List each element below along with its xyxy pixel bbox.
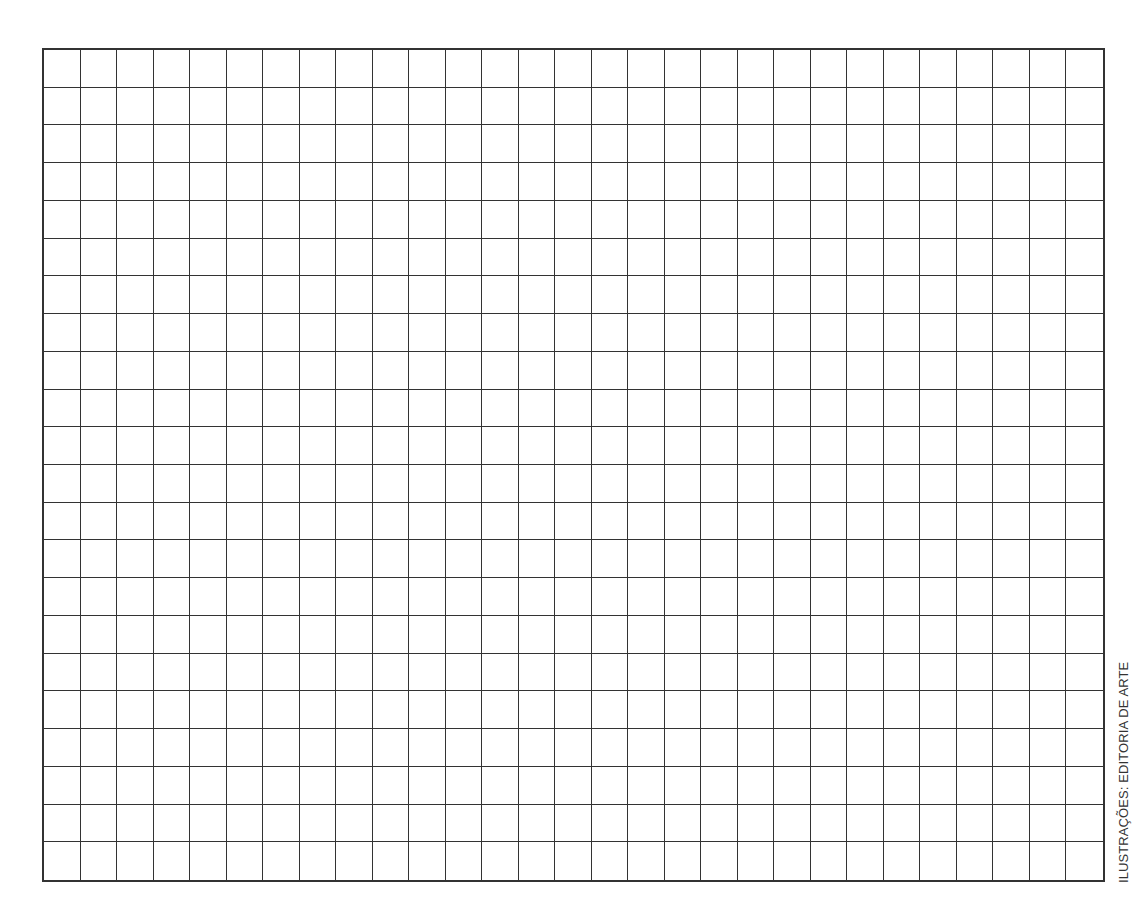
grid-cell <box>1030 578 1067 616</box>
grid-cell <box>774 842 811 880</box>
grid-cell <box>190 691 227 729</box>
grid-cell <box>1066 352 1103 390</box>
grid-cell <box>117 616 154 654</box>
grid-cell <box>44 767 81 805</box>
grid-cell <box>482 616 519 654</box>
grid-cell <box>1066 503 1103 541</box>
grid-cell <box>957 465 994 503</box>
grid-cell <box>738 163 775 201</box>
grid-cell <box>117 125 154 163</box>
grid-cell <box>993 314 1030 352</box>
grid-cell <box>482 805 519 843</box>
grid-cell <box>44 729 81 767</box>
grid-cell <box>409 352 446 390</box>
grid-cell <box>884 465 921 503</box>
grid-cell <box>81 314 118 352</box>
grid-cell <box>1066 276 1103 314</box>
grid-cell <box>44 842 81 880</box>
grid-cell <box>811 125 848 163</box>
grid-cell <box>701 842 738 880</box>
grid-cell <box>300 201 337 239</box>
grid-cell <box>774 314 811 352</box>
grid-cell <box>227 503 264 541</box>
grid-cell <box>190 276 227 314</box>
grid-cell <box>409 125 446 163</box>
grid-cell <box>409 578 446 616</box>
grid-cell <box>190 125 227 163</box>
grid-cell <box>482 503 519 541</box>
grid-cell <box>44 503 81 541</box>
grid-cell <box>774 50 811 88</box>
grid-cell <box>920 691 957 729</box>
grid-cell <box>227 50 264 88</box>
grid-cell <box>263 125 300 163</box>
grid-cell <box>44 427 81 465</box>
grid-cell <box>993 465 1030 503</box>
grid-cell <box>1030 427 1067 465</box>
grid-cell <box>482 540 519 578</box>
grid-cell <box>117 427 154 465</box>
grid-cell <box>263 427 300 465</box>
grid-cell <box>847 842 884 880</box>
grid-cell <box>1030 276 1067 314</box>
grid-cell <box>154 729 191 767</box>
grid-cell <box>519 842 556 880</box>
grid-cell <box>592 540 629 578</box>
grid-cell <box>1066 239 1103 277</box>
grid-cell <box>847 729 884 767</box>
grid-cell <box>81 767 118 805</box>
grid-cell <box>154 767 191 805</box>
grid-cell <box>300 88 337 126</box>
grid-cell <box>373 729 410 767</box>
grid-cell <box>373 276 410 314</box>
grid-cell <box>555 503 592 541</box>
grid-cell <box>336 616 373 654</box>
grid-cell <box>1030 314 1067 352</box>
grid-cell <box>44 50 81 88</box>
grid-cell <box>227 163 264 201</box>
grid-cell <box>446 163 483 201</box>
grid-cell <box>738 691 775 729</box>
grid-cell <box>774 239 811 277</box>
grid-cell <box>190 239 227 277</box>
grid-cell <box>774 352 811 390</box>
grid-cell <box>44 616 81 654</box>
grid-cell <box>446 767 483 805</box>
grid-cell <box>555 427 592 465</box>
grid-cell <box>592 691 629 729</box>
grid-cell <box>409 503 446 541</box>
grid-cell <box>117 540 154 578</box>
grid-cell <box>263 767 300 805</box>
grid-cell <box>373 691 410 729</box>
grid-cell <box>482 352 519 390</box>
grid-cell <box>592 729 629 767</box>
grid-cell <box>738 239 775 277</box>
grid-cell <box>884 767 921 805</box>
grid-cell <box>227 842 264 880</box>
grid-cell <box>993 276 1030 314</box>
grid-cell <box>227 767 264 805</box>
grid-cell <box>190 767 227 805</box>
grid-cell <box>701 578 738 616</box>
grid-cell <box>811 88 848 126</box>
grid-cell <box>847 691 884 729</box>
grid-cell <box>957 805 994 843</box>
grid-cell <box>555 465 592 503</box>
grid-cell <box>336 50 373 88</box>
grid-cell <box>300 465 337 503</box>
grid-cell <box>555 125 592 163</box>
grid-cell <box>884 239 921 277</box>
grid-cell <box>592 314 629 352</box>
grid-cell <box>701 805 738 843</box>
grid-cell <box>628 578 665 616</box>
grid-cell <box>628 427 665 465</box>
grid-cell <box>628 390 665 428</box>
grid-cell <box>884 276 921 314</box>
grid-cell <box>300 767 337 805</box>
grid-cell <box>884 314 921 352</box>
grid-cell <box>701 314 738 352</box>
grid-cell <box>300 578 337 616</box>
grid-cell <box>1066 163 1103 201</box>
grid-cell <box>665 314 702 352</box>
grid-cell <box>227 654 264 692</box>
